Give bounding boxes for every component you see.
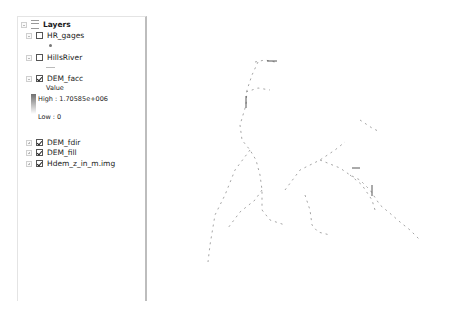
- legend-field-label: Value: [46, 84, 64, 92]
- collapse-icon[interactable]: [26, 76, 32, 82]
- layers-root[interactable]: Layers: [21, 19, 71, 30]
- collapse-icon[interactable]: [26, 55, 32, 61]
- layer-name: Hdem_z_in_m.img: [47, 158, 115, 169]
- expand-icon[interactable]: [26, 150, 32, 156]
- visibility-checkbox[interactable]: [36, 32, 43, 39]
- point-symbol-icon: [49, 44, 52, 47]
- layer-dem-fill[interactable]: DEM_fill: [26, 147, 77, 158]
- table-of-contents-panel: Layers HR_gages HillsRiver DEM_facc Valu…: [17, 16, 147, 301]
- collapse-icon[interactable]: [26, 33, 32, 39]
- expand-icon[interactable]: [26, 140, 32, 146]
- layer-name: DEM_facc: [47, 73, 83, 84]
- stream-segments: [246, 61, 372, 196]
- line-symbol-icon: [46, 67, 55, 68]
- collapse-icon[interactable]: [21, 22, 27, 28]
- color-ramp-icon[interactable]: [31, 94, 36, 114]
- expand-icon[interactable]: [26, 161, 32, 167]
- visibility-checkbox[interactable]: [36, 75, 43, 82]
- visibility-checkbox[interactable]: [36, 54, 43, 61]
- layers-root-label: Layers: [43, 19, 71, 30]
- layer-name: DEM_fill: [47, 147, 77, 158]
- stream-network: [208, 60, 420, 262]
- legend-high-label: High : 1.70585e+006: [38, 95, 108, 103]
- layer-hdem[interactable]: Hdem_z_in_m.img: [26, 158, 115, 169]
- layer-name: HR_gages: [47, 30, 84, 41]
- layers-icon: [31, 20, 39, 29]
- visibility-checkbox[interactable]: [36, 160, 43, 167]
- layer-name: HillsRiver: [47, 52, 82, 63]
- layer-dem-facc[interactable]: DEM_facc: [26, 73, 83, 84]
- visibility-checkbox[interactable]: [36, 149, 43, 156]
- legend-low-label: Low : 0: [38, 113, 61, 121]
- layer-hillsriver[interactable]: HillsRiver: [26, 52, 82, 63]
- map-canvas[interactable]: [160, 30, 460, 290]
- layer-hr-gages[interactable]: HR_gages: [26, 30, 84, 41]
- visibility-checkbox[interactable]: [36, 139, 43, 146]
